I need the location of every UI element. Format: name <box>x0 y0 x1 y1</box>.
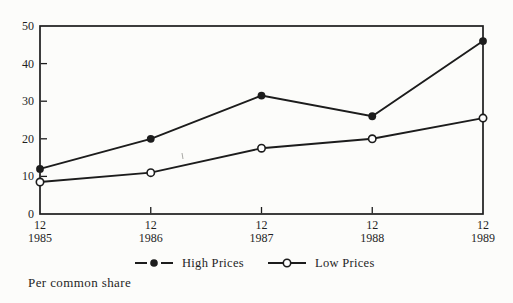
data-point-marker <box>479 114 486 121</box>
x-axis-year-label: 1989 <box>471 231 495 245</box>
plot-frame <box>40 26 483 214</box>
data-point-marker <box>479 37 487 45</box>
y-axis-tick-label: 10 <box>22 169 34 183</box>
data-point-marker <box>258 92 266 100</box>
low-prices-marker-icon <box>268 257 306 269</box>
legend-label-low-prices: Low Prices <box>315 256 375 271</box>
y-axis-tick-label: 40 <box>22 57 34 71</box>
x-axis-month-label: 12 <box>34 218 46 232</box>
data-point-marker <box>258 145 265 152</box>
legend-label-high-prices: High Prices <box>182 256 244 271</box>
x-axis-month-label: 12 <box>256 218 268 232</box>
x-axis-year-label: 1988 <box>360 231 384 245</box>
x-axis-month-label: 12 <box>477 218 489 232</box>
chart-legend: High Prices Low Prices <box>0 256 513 272</box>
line-chart-plot: 0102030405012198512198612198712198812198… <box>0 0 513 248</box>
x-axis-month-label: 12 <box>145 218 157 232</box>
y-axis-tick-label: 50 <box>22 19 34 33</box>
data-point-marker <box>36 165 44 173</box>
y-axis-tick-label: 30 <box>22 94 34 108</box>
data-point-marker <box>368 112 376 120</box>
y-axis-tick-label: 20 <box>22 132 34 146</box>
data-point-marker <box>36 178 43 185</box>
data-point-marker <box>147 135 155 143</box>
data-point-marker <box>369 135 376 142</box>
stock-price-chart-page: 0102030405012198512198612198712198812198… <box>0 0 513 303</box>
legend-item-low-prices: Low Prices <box>268 256 375 270</box>
x-axis-month-label: 12 <box>366 218 378 232</box>
legend-item-high-prices: High Prices <box>135 256 244 270</box>
x-axis-year-label: 1987 <box>250 231 274 245</box>
data-point-marker <box>147 169 154 176</box>
scan-speck <box>182 153 183 159</box>
high-prices-marker-icon <box>135 257 173 269</box>
x-axis-year-label: 1986 <box>139 231 163 245</box>
footnote-per-common-share: Per common share <box>28 275 131 291</box>
x-axis-year-label: 1985 <box>28 231 52 245</box>
